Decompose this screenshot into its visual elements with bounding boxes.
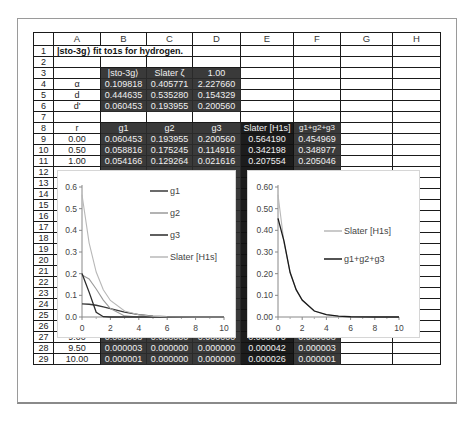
cell[interactable] [393,156,441,167]
row-header[interactable]: 6 [34,101,54,112]
cell[interactable] [393,112,441,123]
cell[interactable] [241,112,294,123]
cell[interactable] [393,101,441,112]
cell[interactable] [147,112,193,123]
cell[interactable] [54,112,101,123]
cell[interactable] [393,68,441,79]
row-header[interactable]: 20 [34,255,54,266]
cell[interactable] [393,90,441,101]
param-cell[interactable]: 0.060453 [101,101,147,112]
slater-cell[interactable]: 0.207554 [241,156,294,167]
g3-cell[interactable]: 0.000000 [193,354,241,365]
cell[interactable] [241,90,294,101]
column-header-e[interactable]: E [241,33,294,46]
cell[interactable] [341,101,393,112]
param-cell[interactable]: 0.535280 [147,90,193,101]
row-header[interactable]: 2 [34,57,54,68]
row-header[interactable]: 18 [34,233,54,244]
column-header-b[interactable]: B [101,33,147,46]
cell[interactable] [341,57,393,68]
cell[interactable] [393,79,441,90]
cell[interactable] [393,46,441,57]
param-cell[interactable]: 0.193955 [147,101,193,112]
row-header[interactable]: 26 [34,321,54,332]
column-header-g[interactable]: G [341,33,393,46]
row-header[interactable]: 16 [34,211,54,222]
cell[interactable] [294,79,341,90]
slater-cell[interactable]: 0.342198 [241,145,294,156]
cell[interactable] [101,57,147,68]
row-header[interactable]: 23 [34,288,54,299]
cell[interactable] [393,354,441,365]
g1-cell[interactable]: 0.054166 [101,156,147,167]
g3-cell[interactable]: 0.000000 [193,343,241,354]
slater-cell[interactable]: 0.000026 [241,354,294,365]
cell[interactable] [241,68,294,79]
column-header-a[interactable]: A [54,33,101,46]
g2-cell[interactable]: 0.193955 [147,134,193,145]
cell[interactable] [393,57,441,68]
header-cell-g2[interactable]: g2 [147,123,193,134]
row-header[interactable]: 5 [34,90,54,101]
row-header[interactable]: 13 [34,178,54,189]
row-header[interactable]: 9 [34,134,54,145]
cell[interactable] [341,354,393,365]
row-header[interactable]: 11 [34,156,54,167]
cell[interactable] [341,156,393,167]
row-header[interactable]: 8 [34,123,54,134]
slater-zeta-label-cell[interactable]: Slater ζ [147,68,193,79]
cell[interactable] [241,57,294,68]
g2-cell[interactable]: 0.129264 [147,156,193,167]
row-header[interactable]: 1 [34,46,54,57]
slater-zeta-value-cell[interactable]: 1.00 [193,68,241,79]
select-all-corner[interactable] [34,33,54,46]
cell[interactable] [193,112,241,123]
cell[interactable] [193,46,241,57]
cell[interactable] [341,79,393,90]
row-header[interactable]: 29 [34,354,54,365]
r-cell[interactable]: 0.00 [54,134,101,145]
g3-cell[interactable]: 0.114916 [193,145,241,156]
column-header-c[interactable]: C [147,33,193,46]
cell[interactable] [341,145,393,156]
g3-cell[interactable]: 0.021616 [193,156,241,167]
g1-cell[interactable]: 0.000001 [101,354,147,365]
r-cell[interactable]: 0.50 [54,145,101,156]
cell[interactable] [341,343,393,354]
param-cell[interactable]: 0.109818 [101,79,147,90]
row-header[interactable]: 3 [34,68,54,79]
cell[interactable] [341,112,393,123]
cell[interactable] [147,57,193,68]
slater-cell[interactable]: 0.564190 [241,134,294,145]
param-cell[interactable]: 2.227660 [193,79,241,90]
g1-cell[interactable]: 0.000003 [101,343,147,354]
g3-cell[interactable]: 0.200560 [193,134,241,145]
param-label-cell[interactable]: α [54,79,101,90]
sum-cell[interactable]: 0.205046 [294,156,341,167]
row-header[interactable]: 4 [34,79,54,90]
row-header[interactable]: 15 [34,200,54,211]
sum-cell[interactable]: 0.000001 [294,354,341,365]
r-cell[interactable]: 10.00 [54,354,101,365]
g2-cell[interactable]: 0.000000 [147,343,193,354]
cell[interactable] [241,79,294,90]
param-cell[interactable]: 0.154329 [193,90,241,101]
gaussian-components-chart[interactable]: 0.00.10.20.30.40.50.60246810r [a.u.]g1g2… [57,170,236,338]
row-header[interactable]: 24 [34,299,54,310]
slater-cell[interactable]: 0.000042 [241,343,294,354]
param-cell[interactable]: 0.200560 [193,101,241,112]
cell[interactable] [341,90,393,101]
row-header[interactable]: 7 [34,112,54,123]
cell[interactable] [241,46,294,57]
g1-cell[interactable]: 0.060453 [101,134,147,145]
header-cell-slater[interactable]: Slater [H1s] [241,123,294,134]
column-header-h[interactable]: H [393,33,441,46]
g2-cell[interactable]: 0.175245 [147,145,193,156]
cell[interactable] [341,134,393,145]
row-header[interactable]: 10 [34,145,54,156]
row-header[interactable]: 25 [34,310,54,321]
param-cell[interactable]: 0.405771 [147,79,193,90]
r-cell[interactable]: 9.50 [54,343,101,354]
column-header-f[interactable]: F [294,33,341,46]
row-header[interactable]: 14 [34,189,54,200]
